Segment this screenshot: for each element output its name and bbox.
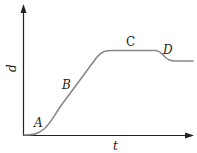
x-axis-label: t [113,139,118,153]
displacement-curve [24,51,193,136]
x-axis [23,133,194,139]
y-axis-arrow-icon [21,4,27,13]
y-axis-label: d [5,64,19,72]
displacement-time-graph: A B C D t d [0,0,197,153]
segment-label-b: B [61,78,71,92]
segment-label-a: A [33,116,43,130]
segment-label-c: C [126,35,135,49]
y-axis [21,4,27,136]
x-axis-arrow-icon [185,133,194,139]
segment-label-d: D [162,43,173,57]
